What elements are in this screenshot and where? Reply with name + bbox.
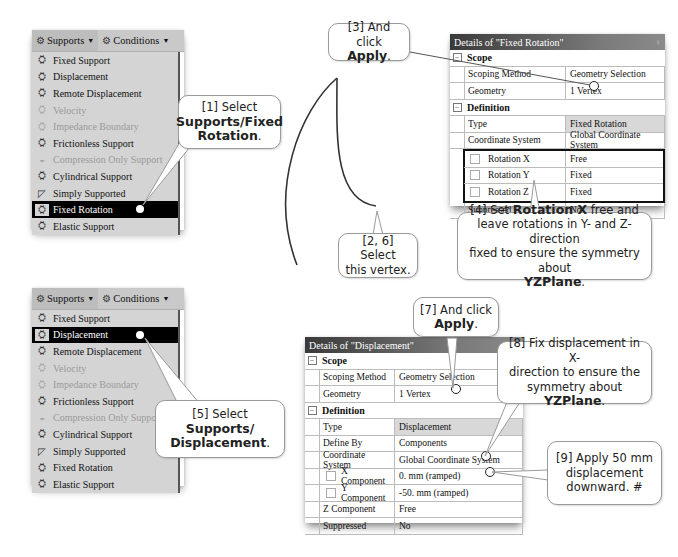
parameter-checkbox[interactable] (470, 154, 480, 164)
conditions-menu-button[interactable]: ⚙ Conditions ▼ (98, 288, 173, 309)
y-component-marker (485, 467, 495, 477)
velocity-icon: ⛭ (35, 104, 49, 116)
row-scoping-method[interactable]: Scoping MethodGeometry Selection (450, 67, 665, 84)
cylindrical-support-icon: ⛭ (35, 428, 49, 440)
callout-step-5: [5] Select Supports/ Displacement. (155, 400, 285, 458)
row-type[interactable]: TypeDisplacement (305, 419, 523, 436)
simply-supported-icon: ◸ (35, 188, 49, 199)
chevron-down-icon: ▼ (162, 37, 169, 45)
group-definition[interactable]: −Definition (450, 100, 665, 117)
conditions-menu-button[interactable]: ⚙ Conditions ▼ (98, 30, 173, 51)
displacement-icon: ⛭ (35, 71, 49, 83)
supports-menu-button[interactable]: ⚙ Supports ▼ (32, 288, 98, 309)
fixed-rotation-icon: ⛭ (35, 204, 49, 216)
group-scope[interactable]: −Scope (305, 353, 523, 370)
menu-item-impedance-boundary: ⛭Impedance Boundary (32, 118, 178, 135)
supports-dropdown: ⛭Fixed Support ⛭Displacement ⛭Remote Dis… (32, 52, 180, 235)
menu-item-frictionless-support[interactable]: ⛭Frictionless Support (32, 135, 178, 152)
supports-icon: ⚙ (36, 35, 45, 46)
menu-item-velocity: ⛭Velocity (32, 360, 178, 377)
parameter-checkbox[interactable] (326, 488, 336, 498)
supports-icon: ⚙ (36, 293, 45, 304)
row-y-component[interactable]: Y Component-50. mm (ramped) (305, 485, 523, 502)
collapse-icon[interactable]: − (308, 356, 317, 365)
menubar: ⚙ Supports ▼ ⚙ Conditions ▼ (32, 30, 184, 52)
row-coordinate-system[interactable]: Coordinate SystemGlobal Coordinate Syste… (450, 133, 665, 150)
chevron-down-icon: ▼ (162, 295, 169, 303)
parameter-checkbox[interactable] (470, 187, 480, 197)
row-rotation-z[interactable]: Rotation ZFixed (464, 184, 663, 201)
compression-only-support-icon: ◒ (35, 412, 49, 423)
elastic-support-icon: ⛭ (35, 478, 49, 490)
menu-item-impedance-boundary: ⛭Impedance Boundary (32, 376, 178, 393)
panel-title: Details of "Fixed Rotation" ♀ (450, 34, 665, 50)
group-scope[interactable]: −Scope (450, 50, 665, 67)
group-definition[interactable]: −Definition (305, 403, 523, 420)
row-rotation-x[interactable]: Rotation XFree (464, 151, 663, 168)
menu-item-fixed-rotation[interactable]: ⛭Fixed Rotation (32, 201, 178, 218)
menu-item-simply-supported[interactable]: ◸Simply Supported (32, 185, 178, 202)
parameter-checkbox[interactable] (326, 471, 336, 481)
parameter-checkbox[interactable] (470, 170, 480, 180)
row-suppressed[interactable]: SuppressedNo (305, 518, 523, 535)
menu-screenshot-top: ⚙ Supports ▼ ⚙ Conditions ▼ ⛭Fixed Suppo… (32, 30, 184, 230)
geometry-click-marker (451, 384, 461, 394)
pointer-dot (136, 331, 144, 339)
row-scoping-method[interactable]: Scoping MethodGeometry Selection (305, 370, 523, 387)
menu-item-remote-displacement[interactable]: ⛭Remote Displacement (32, 85, 178, 102)
chevron-down-icon: ▼ (87, 37, 94, 45)
menu-item-fixed-support[interactable]: ⛭Fixed Support (32, 52, 178, 69)
fixed-rotation-icon: ⛭ (35, 462, 49, 474)
fixed-support-icon: ⛭ (35, 54, 49, 66)
callout-step-9: [9] Apply 50 mm displacement downward. # (547, 441, 662, 505)
supports-menu-button[interactable]: ⚙ Supports ▼ (32, 30, 98, 51)
row-geometry[interactable]: Geometry1 Vertex (450, 83, 665, 100)
cylindrical-support-icon: ⛭ (35, 170, 49, 182)
menu-item-fixed-rotation[interactable]: ⛭Fixed Rotation (32, 459, 178, 476)
displacement-icon: ⛭ (35, 329, 49, 341)
collapse-icon[interactable]: − (308, 406, 317, 415)
elastic-support-icon: ⛭ (35, 220, 49, 232)
remote-displacement-icon: ⛭ (35, 87, 49, 99)
callout-step-1: [1] Select Supports/Fixed Rotation. (178, 95, 281, 149)
menu-item-elastic-support[interactable]: ⛭Elastic Support (32, 218, 178, 235)
row-rotation-y[interactable]: Rotation YFixed (464, 168, 663, 185)
details-fixed-rotation-panel: Details of "Fixed Rotation" ♀ −Scope Sco… (450, 34, 665, 206)
callout-step-2-6: [2, 6] Select this vertex. (338, 233, 418, 278)
row-z-component[interactable]: Z ComponentFree (305, 502, 523, 519)
menubar: ⚙ Supports ▼ ⚙ Conditions ▼ (32, 288, 184, 310)
menu-item-fixed-support[interactable]: ⛭Fixed Support (32, 310, 178, 327)
rotation-rows-highlight: Rotation XFree Rotation YFixed Rotation … (463, 149, 665, 203)
collapse-icon[interactable]: − (453, 103, 462, 112)
collapse-icon[interactable]: − (453, 53, 462, 62)
geometry-click-marker (589, 81, 599, 91)
details-displacement-panel: Details of "Displacement" −Scope Scoping… (305, 337, 523, 523)
conditions-icon: ⚙ (102, 35, 111, 46)
menu-item-compression-only-support: ◒Compression Only Support (32, 152, 178, 169)
pin-icon[interactable]: ♀ (655, 38, 661, 47)
x-component-marker (481, 451, 491, 461)
pointer-dot (136, 205, 144, 213)
impedance-boundary-icon: ⛭ (35, 121, 49, 133)
menu-item-displacement[interactable]: ⛭Displacement (32, 69, 178, 86)
panel-title: Details of "Displacement" (305, 337, 523, 353)
chevron-down-icon: ▼ (87, 295, 94, 303)
menu-item-velocity: ⛭Velocity (32, 102, 178, 119)
simply-supported-icon: ◸ (35, 446, 49, 457)
compression-only-support-icon: ◒ (35, 154, 49, 165)
menu-item-displacement[interactable]: ⛭Displacement (32, 327, 178, 344)
fixed-support-icon: ⛭ (35, 312, 49, 324)
velocity-icon: ⛭ (35, 362, 49, 374)
conditions-icon: ⚙ (102, 293, 111, 304)
remote-displacement-icon: ⛭ (35, 345, 49, 357)
row-geometry[interactable]: Geometry1 Vertex (305, 386, 523, 403)
frictionless-support-icon: ⛭ (35, 395, 49, 407)
callout-step-8: [8] Fix displacement in X- direction to … (497, 341, 652, 404)
menu-item-cylindrical-support[interactable]: ⛭Cylindrical Support (32, 168, 178, 185)
frictionless-support-icon: ⛭ (35, 137, 49, 149)
menu-item-elastic-support[interactable]: ⛭Elastic Support (32, 476, 178, 493)
callout-step-3: [3] And click Apply. (328, 23, 410, 61)
callout-step-4: [4] Set Rotation X free and leave rotati… (457, 212, 652, 280)
callout-step-7: [7] And click Apply. (413, 297, 499, 337)
menu-item-remote-displacement[interactable]: ⛭Remote Displacement (32, 343, 178, 360)
